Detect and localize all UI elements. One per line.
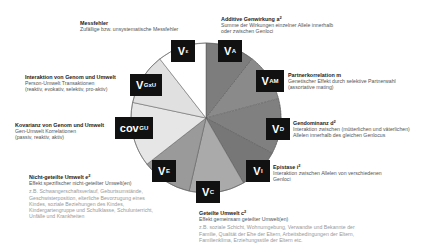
label-desc: Genloci: [273, 176, 382, 182]
label-example: z.B. soziale Schicht, Wohnumgebung, Verw…: [199, 224, 355, 230]
box-v-d: VD: [266, 118, 290, 140]
title-sup: 2: [88, 173, 90, 178]
box-sub: AM: [269, 78, 278, 84]
label-desc: (assortative mating): [288, 84, 396, 90]
title-text: Epistase i: [273, 164, 298, 170]
box-v-epsilon: Vε: [171, 40, 195, 62]
title-sup: 2: [279, 15, 281, 20]
box-main: V: [178, 45, 185, 57]
label-desc: (passiv, reaktiv, aktiv): [15, 134, 104, 140]
title-text: Gendominanz d: [293, 120, 333, 126]
label-geteilte-umwelt: Geteilte Umwelt c2 Effekt gemeinsam gete…: [199, 209, 355, 243]
box-main: V: [253, 165, 260, 177]
box-main: V: [158, 165, 165, 177]
label-kovarianz: Kovarianz von Genom und Umwelt Gen-Umwel…: [15, 122, 104, 141]
title-sup: 2: [244, 209, 246, 214]
box-main: V: [224, 45, 231, 57]
box-sub: ε: [185, 48, 188, 54]
label-title: Epistase i2: [273, 163, 382, 170]
title-text: Additive Genwirkung a: [221, 16, 279, 22]
title-text: Geteilte Umwelt c: [199, 210, 244, 216]
box-sub: I: [261, 168, 263, 174]
label-messfehler: Messfehler Zufällige bzw. unsystematisch…: [80, 20, 178, 32]
box-main: V: [261, 75, 268, 87]
box-v-c: VC: [196, 181, 220, 203]
label-example: Geschwisterposition, elterliche Bevorzug…: [29, 195, 153, 201]
label-gendominanz: Gendominanz d2 Interaktion zwischen (müt…: [293, 119, 410, 139]
label-example: Familienklima, Erziehungsstile der Elter…: [199, 237, 355, 243]
label-nicht-geteilte-umwelt: Nicht-geteilte Umwelt e2 Effekt spezifis…: [29, 173, 153, 219]
box-sub: GU: [139, 125, 148, 131]
label-example: z.B. Schwangerschaftsverlauf, Geburtsums…: [29, 188, 153, 194]
label-partner: Partnerkorrelation m Genetischer Effekt …: [288, 72, 396, 91]
box-v-a: VA: [218, 40, 242, 62]
box-sub: C: [210, 189, 214, 195]
label-additive: Additive Genwirkung a2 Summe der Wirkung…: [221, 15, 333, 35]
label-title: Gendominanz d2: [293, 119, 410, 126]
box-main: V: [272, 123, 279, 135]
box-v-e: VE: [152, 160, 176, 182]
box-main: V: [136, 79, 143, 91]
label-desc: (reaktiv, evokativ, selektiv, pro-aktiv): [25, 86, 116, 92]
box-v-gxu: VGxU: [130, 74, 162, 96]
label-example: Familie, Qualität der Ehe der Eltern, Ar…: [199, 231, 355, 237]
box-sub: D: [280, 126, 284, 132]
label-desc: oder zwischen Genloci: [221, 28, 333, 34]
label-desc: Zufällige bzw. unsystematische Messfehle…: [80, 26, 178, 32]
title-sup: 2: [333, 119, 335, 124]
label-title: Nicht-geteilte Umwelt e2: [29, 173, 153, 180]
title-sup: 2: [298, 163, 300, 168]
label-epistase: Epistase i2 Interaktion zwischen Allelen…: [273, 163, 382, 183]
title-text: Nicht-geteilte Umwelt e: [29, 174, 88, 180]
box-sub: A: [232, 48, 236, 54]
label-desc: Allelen innerhalb des gleichen Genlocus: [293, 132, 410, 138]
box-sub: GxU: [144, 82, 156, 88]
box-v-am: VAM: [256, 70, 284, 92]
box-main: V: [202, 186, 209, 198]
label-title: Geteilte Umwelt c2: [199, 209, 355, 216]
box-v-i: VI: [246, 160, 270, 182]
box-main: cov: [120, 122, 139, 134]
box-sub: E: [166, 168, 170, 174]
box-cov-gu: covGU: [115, 117, 153, 139]
label-interaktion: Interaktion von Genom und Umwelt Person-…: [25, 74, 116, 93]
label-example: Unfälle und Krankheiten: [29, 213, 153, 219]
label-title: Additive Genwirkung a2: [221, 15, 333, 22]
